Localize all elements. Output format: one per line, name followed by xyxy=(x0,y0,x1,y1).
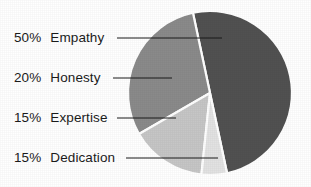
pie-label-expertise-name: Expertise xyxy=(50,111,107,125)
pie-label-empathy: 50% Empathy xyxy=(14,31,104,45)
pie-label-dedication-name: Dedication xyxy=(50,151,115,165)
pie-label-dedication: 15% Dedication xyxy=(14,151,115,165)
pie-slices xyxy=(128,11,292,175)
pie-label-empathy-name: Empathy xyxy=(50,31,104,45)
pie-label-honesty-name: Honesty xyxy=(50,71,100,85)
pie-label-honesty-percent: 20% xyxy=(14,71,41,85)
pie-chart-figure: 50% Empathy 20% Honesty 15% Expertise 15… xyxy=(0,0,311,187)
pie-label-expertise-percent: 15% xyxy=(14,111,41,125)
pie-label-expertise: 15% Expertise xyxy=(14,111,108,125)
pie-label-empathy-percent: 50% xyxy=(14,31,41,45)
pie-label-dedication-percent: 15% xyxy=(14,151,41,165)
pie-label-honesty: 20% Honesty xyxy=(14,71,101,85)
